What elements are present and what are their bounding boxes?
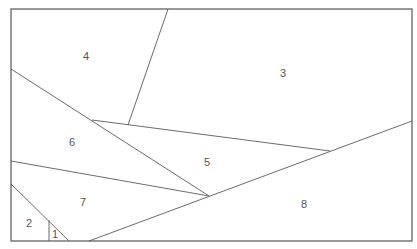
- region-label-5: 5: [204, 156, 210, 168]
- region-label-3: 3: [280, 67, 286, 79]
- region-diagram: 1 2 3 4 5 6 7 8: [0, 0, 417, 249]
- region-label-8: 8: [301, 198, 307, 210]
- region-label-4: 4: [83, 50, 89, 62]
- region-label-6: 6: [69, 136, 75, 148]
- diagram-frame: [11, 9, 412, 241]
- region-label-1: 1: [52, 228, 58, 240]
- region-label-7: 7: [80, 196, 86, 208]
- region-label-2: 2: [26, 217, 32, 229]
